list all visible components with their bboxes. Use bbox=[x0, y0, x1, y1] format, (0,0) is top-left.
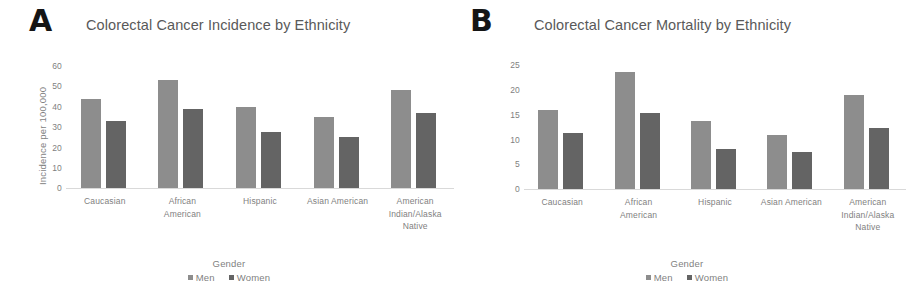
bar-women bbox=[106, 121, 126, 188]
legend-item-men[interactable]: Men bbox=[646, 272, 673, 283]
bar-men bbox=[314, 117, 334, 188]
legend-item-men[interactable]: Men bbox=[188, 272, 215, 283]
y-tick-label: 5 bbox=[498, 160, 520, 169]
y-tick-label: 20 bbox=[40, 144, 62, 153]
y-tick-label: 50 bbox=[40, 82, 62, 91]
panel-b-baseline bbox=[524, 189, 906, 190]
bar-women bbox=[716, 149, 736, 189]
category-label: Caucasian bbox=[66, 195, 144, 233]
bar-women bbox=[261, 132, 281, 188]
y-tick-label: 15 bbox=[498, 111, 520, 120]
bar-men bbox=[158, 80, 178, 188]
bar-men bbox=[391, 90, 411, 188]
bar-women bbox=[416, 113, 436, 188]
category-label: American Indian/Alaska Native bbox=[830, 196, 906, 234]
bar-women bbox=[339, 137, 359, 188]
category-label: Asian American bbox=[299, 195, 377, 233]
category-label: African American bbox=[600, 196, 676, 234]
y-tick-label: 60 bbox=[40, 62, 62, 71]
legend-swatch-men-icon bbox=[188, 275, 193, 280]
legend-label-men: Men bbox=[654, 272, 673, 283]
y-tick-label: 25 bbox=[498, 61, 520, 70]
category-label: Caucasian bbox=[524, 196, 600, 234]
bar-group-american-indian bbox=[830, 65, 906, 189]
category-label: African American bbox=[144, 195, 222, 233]
panel-a-legend: Gender Men Women bbox=[0, 258, 458, 283]
panel-b: B Colorectal Cancer Mortality by Ethnici… bbox=[458, 0, 916, 305]
bar-group-asian-american bbox=[753, 65, 829, 189]
bar-group-asian-american bbox=[299, 66, 377, 188]
panel-a-bar-area bbox=[66, 66, 454, 188]
legend-title: Gender bbox=[458, 258, 916, 269]
bar-men bbox=[691, 121, 711, 189]
legend-swatch-women-icon bbox=[229, 275, 234, 280]
legend-item-women[interactable]: Women bbox=[229, 272, 271, 283]
panel-b-bar-area bbox=[524, 65, 906, 189]
category-label: Hispanic bbox=[221, 195, 299, 233]
bar-group-african-american bbox=[144, 66, 222, 188]
y-tick-label: 0 bbox=[40, 184, 62, 193]
bar-men bbox=[538, 110, 558, 189]
panel-a-category-labels: Caucasian African American Hispanic Asia… bbox=[66, 195, 454, 233]
category-label: Hispanic bbox=[677, 196, 753, 234]
bar-women bbox=[792, 152, 812, 189]
y-tick-label: 10 bbox=[40, 164, 62, 173]
panel-a: A Colorectal Cancer Incidence by Ethnici… bbox=[0, 0, 458, 305]
bar-men bbox=[767, 135, 787, 189]
y-tick-label: 0 bbox=[498, 185, 520, 194]
figure-two-panel-bar-charts: A Colorectal Cancer Incidence by Ethnici… bbox=[0, 0, 916, 305]
panel-a-baseline bbox=[66, 188, 454, 189]
bar-men bbox=[615, 72, 635, 189]
bar-women bbox=[640, 113, 660, 189]
panel-b-plot: Deaths per 100,000 25 20 15 10 5 0 bbox=[458, 0, 916, 305]
category-label: Asian American bbox=[753, 196, 829, 234]
legend-swatch-women-icon bbox=[687, 275, 692, 280]
bar-group-hispanic bbox=[677, 65, 753, 189]
bar-group-hispanic bbox=[221, 66, 299, 188]
legend-swatch-men-icon bbox=[646, 275, 651, 280]
y-tick-label: 40 bbox=[40, 103, 62, 112]
legend-label-women: Women bbox=[237, 272, 271, 283]
category-label: American Indian/Alaska Native bbox=[376, 195, 454, 233]
bar-women bbox=[563, 133, 583, 189]
bar-women bbox=[869, 128, 889, 190]
legend-label-men: Men bbox=[196, 272, 215, 283]
legend-title: Gender bbox=[0, 258, 458, 269]
panel-b-category-labels: Caucasian African American Hispanic Asia… bbox=[524, 196, 906, 234]
bar-group-american-indian bbox=[376, 66, 454, 188]
legend-label-women: Women bbox=[695, 272, 729, 283]
y-tick-label: 20 bbox=[498, 86, 520, 95]
bar-group-caucasian bbox=[66, 66, 144, 188]
bar-group-caucasian bbox=[524, 65, 600, 189]
panel-a-plot: Incidence per 100,000 60 50 40 30 20 10 … bbox=[0, 0, 458, 305]
bar-women bbox=[183, 109, 203, 188]
y-tick-label: 30 bbox=[40, 123, 62, 132]
panel-b-legend: Gender Men Women bbox=[458, 258, 916, 283]
bar-men bbox=[81, 99, 101, 188]
bar-group-african-american bbox=[600, 65, 676, 189]
legend-item-women[interactable]: Women bbox=[687, 272, 729, 283]
legend-items: Men Women bbox=[458, 272, 916, 283]
y-tick-label: 10 bbox=[498, 136, 520, 145]
bar-men bbox=[236, 107, 256, 188]
legend-items: Men Women bbox=[0, 272, 458, 283]
bar-men bbox=[844, 95, 864, 189]
